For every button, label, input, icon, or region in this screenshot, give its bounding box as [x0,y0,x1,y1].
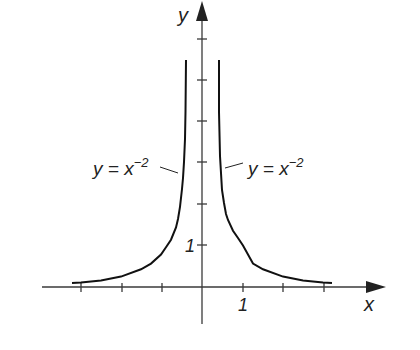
left-label-leader [160,167,178,173]
right-curve-label: y = x−2 [246,155,304,179]
function-plot: y = x−2 y = x−2 y x 1 1 [0,0,420,350]
x-axis-arrow-icon [366,281,386,293]
right-label-leader [225,163,243,168]
y-tick-label-1: 1 [185,236,195,256]
y-axis-label: y [176,4,189,26]
x-tick-label-1: 1 [238,295,248,315]
x-axis-label: x [363,293,375,315]
left-curve-label: y = x−2 [91,155,149,179]
y-axis-arrow-icon [196,1,208,21]
